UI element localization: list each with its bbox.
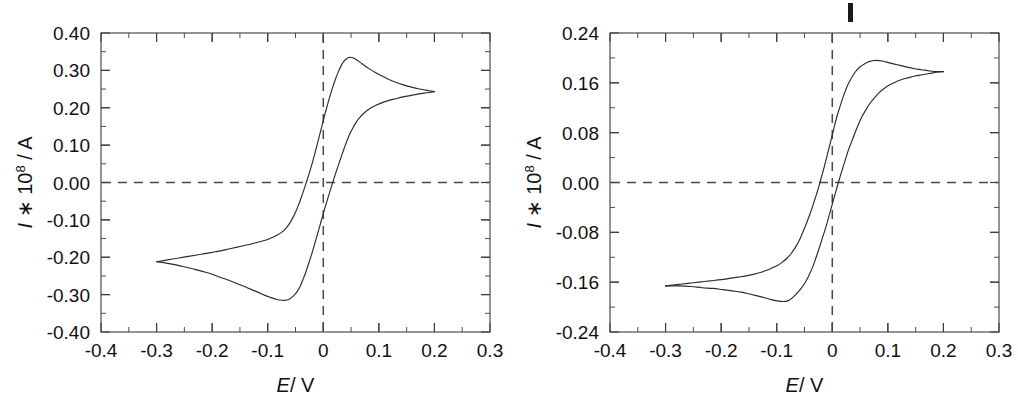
x-tick-label: 0.3 [986,340,1012,361]
x-tick-label: -0.1 [760,340,793,361]
cv-plot-left-svg: 0.400.300.200.100.00-0.10-0.20-0.30-0.40… [0,0,509,410]
x-tick-label: -0.3 [140,340,173,361]
y-tick-label: 0.16 [562,73,599,94]
y-tick-label: -0.30 [47,285,90,306]
y-axis-title-exponent: 8 [522,165,537,172]
cv-plot-right-svg: 0.240.160.080.00-0.08-0.16-0.24-0.4-0.3-… [509,0,1018,410]
cv-plot-left-panel: 0.400.300.200.100.00-0.10-0.20-0.30-0.40… [0,0,509,410]
x-axis-title-unit: / V [290,374,315,396]
x-tick-label: -0.4 [85,340,118,361]
y-axis-title-exponent: 8 [13,165,28,172]
x-axis-title: E/ V [277,374,315,396]
y-tick-label: 0.00 [53,173,90,194]
x-tick-label: 0.2 [421,340,447,361]
y-tick-label: 0.24 [562,23,599,44]
x-axis-title-symbol: E [277,374,291,396]
cv-curve-reverse-cathodic-scan [157,92,435,301]
y-tick-label: 0.30 [53,60,90,81]
cyclic-voltammetry-figure: 0.400.300.200.100.00-0.10-0.20-0.30-0.40… [0,0,1018,410]
x-tick-label: -0.1 [251,340,284,361]
cv-curve-forward-anodic-scan [666,60,944,286]
x-axis-title-unit: / V [799,374,824,396]
y-tick-label: 0.00 [562,173,599,194]
y-tick-label: -0.10 [47,210,90,231]
y-tick-label: -0.40 [47,322,90,343]
y-tick-label: -0.20 [47,247,90,268]
y-tick-label: 0.20 [53,98,90,119]
x-tick-label: 0.1 [366,340,392,361]
x-tick-label: 0.1 [875,340,901,361]
y-axis-title-unit: / A [14,136,36,166]
y-axis-title: I ∗ 108 / A [522,136,545,229]
plot-left-content: 0.400.300.200.100.00-0.10-0.20-0.30-0.40… [13,23,503,396]
y-axis-title-unit: / A [523,136,545,166]
y-tick-label: 0.40 [53,23,90,44]
cv-curve-forward-anodic-scan [157,57,435,262]
y-tick-label: 0.08 [562,123,599,144]
x-tick-label: -0.2 [705,340,738,361]
page-edge-marker [848,3,853,22]
y-tick-label: -0.16 [556,272,599,293]
y-tick-label: -0.08 [556,222,599,243]
y-tick-label: 0.10 [53,135,90,156]
x-tick-label: 0 [318,340,329,361]
x-tick-label: 0 [827,340,838,361]
x-tick-label: 0.3 [477,340,503,361]
x-tick-label: -0.3 [649,340,682,361]
plot-right-content: 0.240.160.080.00-0.08-0.16-0.24-0.4-0.3-… [522,23,1012,396]
y-axis-title-mid: ∗ 10 [523,173,545,223]
x-tick-label: -0.2 [196,340,229,361]
cv-curve-reverse-cathodic-scan [666,72,944,302]
x-tick-label: 0.2 [930,340,956,361]
x-tick-label: -0.4 [594,340,627,361]
cv-plot-right-panel: 0.240.160.080.00-0.08-0.16-0.24-0.4-0.3-… [509,0,1018,410]
y-axis-title: I ∗ 108 / A [13,136,36,229]
x-axis-title: E/ V [786,374,824,396]
y-axis-title-mid: ∗ 10 [14,173,36,223]
x-axis-title-symbol: E [786,374,800,396]
